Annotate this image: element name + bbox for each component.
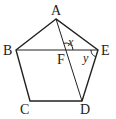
label-c: C xyxy=(20,102,29,117)
label-a: A xyxy=(51,3,62,18)
angle-y-arc xyxy=(91,50,96,57)
label-d: D xyxy=(80,102,90,117)
pentagon-diagram: A B C D E F x y xyxy=(0,0,116,119)
label-f: F xyxy=(57,52,65,67)
label-angle-y: y xyxy=(82,51,89,65)
label-e: E xyxy=(101,43,110,58)
label-angle-x: x xyxy=(67,35,74,49)
label-b: B xyxy=(3,43,12,58)
